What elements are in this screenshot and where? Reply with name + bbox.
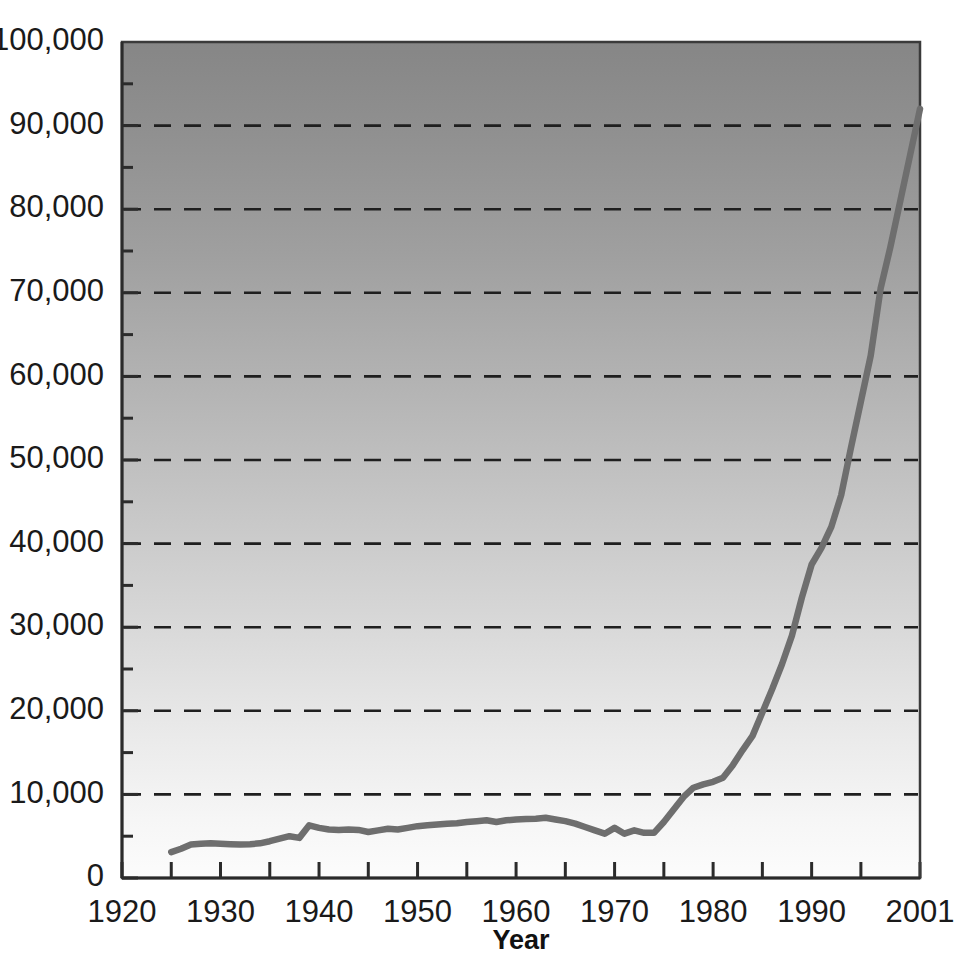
x-axis-tick-label: 1980 <box>679 894 748 929</box>
y-axis-tick-label: 50,000 <box>9 440 104 475</box>
y-axis-tick-label: 60,000 <box>9 357 104 392</box>
line-chart: 010,00020,00030,00040,00050,00060,00070,… <box>0 0 973 975</box>
x-axis-tick-labels: 192019301940195019601970198019902001 <box>88 894 955 929</box>
y-axis-tick-label: 100,000 <box>0 22 104 57</box>
x-axis-tick-label: 1960 <box>482 894 551 929</box>
x-axis-tick-label: 1950 <box>383 894 452 929</box>
x-axis-tick-label: 2001 <box>886 894 955 929</box>
y-axis-tick-label: 30,000 <box>9 607 104 642</box>
chart-canvas: 010,00020,00030,00040,00050,00060,00070,… <box>0 0 973 975</box>
y-axis-tick-label: 70,000 <box>9 273 104 308</box>
x-axis-tick-label: 1930 <box>186 894 255 929</box>
y-axis-tick-label: 40,000 <box>9 524 104 559</box>
y-axis-tick-label: 90,000 <box>9 106 104 141</box>
y-axis-tick-label: 20,000 <box>9 691 104 726</box>
x-axis-tick-label: 1920 <box>88 894 157 929</box>
x-axis-tick-label: 1990 <box>777 894 846 929</box>
y-axis-tick-label: 10,000 <box>9 775 104 810</box>
y-axis-tick-label: 80,000 <box>9 189 104 224</box>
x-axis-title: Year <box>492 925 550 955</box>
x-axis-tick-label: 1970 <box>580 894 649 929</box>
x-axis-tick-label: 1940 <box>285 894 354 929</box>
y-axis-tick-label: 0 <box>87 858 104 893</box>
